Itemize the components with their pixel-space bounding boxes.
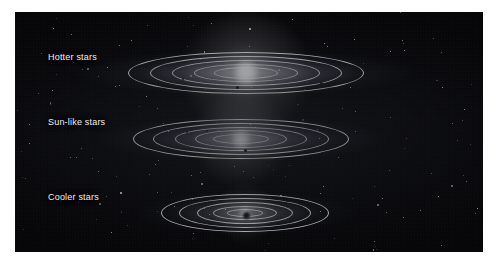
star-glow-outer-cooler (212, 180, 278, 246)
orbit-ring-cooler-4 (213, 206, 277, 220)
planetary-system-cooler (15, 12, 483, 252)
orbit-ring-cooler-1 (161, 194, 329, 232)
label-hotter-stars: Hotter stars (48, 52, 97, 62)
planet-cooler-1 (243, 212, 250, 219)
astronomy-figure: Hotter starsSun-like starsCooler stars (0, 0, 498, 269)
dust-disk-cooler (130, 191, 360, 235)
label-cooler-stars: Cooler stars (48, 192, 99, 202)
disk-core-cooler (174, 197, 317, 229)
star-core-cooler (238, 206, 252, 220)
orbit-ring-cooler-5 (227, 209, 263, 217)
orbit-ring-cooler-3 (197, 202, 293, 224)
space-panel: Hotter starsSun-like starsCooler stars (15, 12, 483, 252)
planet-cooler-2 (286, 200, 288, 202)
orbit-ring-cooler-2 (179, 198, 311, 228)
label-sunlike-stars: Sun-like stars (48, 117, 105, 127)
